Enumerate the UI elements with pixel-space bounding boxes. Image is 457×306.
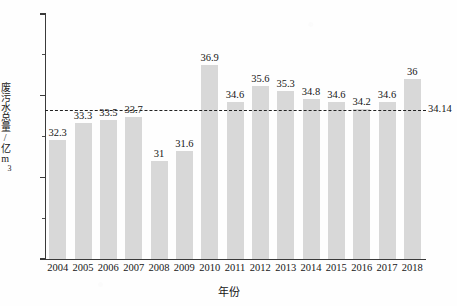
- x-axis-title: 年份: [0, 283, 457, 299]
- y-tick-major: [40, 258, 45, 259]
- bar: [404, 79, 421, 259]
- bar: [227, 102, 244, 259]
- bar-value-label: 36.9: [193, 52, 227, 63]
- y-tick-major: [40, 177, 45, 178]
- bar: [252, 86, 269, 259]
- bar: [125, 117, 142, 259]
- bar: [151, 161, 168, 259]
- bar: [49, 140, 66, 259]
- bar: [277, 91, 294, 259]
- wastewater-bar-chart: 废污水总量/亿m3 25303540 32.333.333.533.73131.…: [0, 0, 457, 306]
- bar-value-label: 32.3: [41, 127, 75, 138]
- y-axis-title: 废污水总量/亿m3: [0, 82, 15, 173]
- reference-line-label: 34.14: [428, 103, 452, 114]
- y-axis-title-text: 废污水总量/亿m: [0, 82, 11, 164]
- bar-value-label: 34.6: [370, 89, 404, 100]
- x-axis-line: [45, 259, 426, 260]
- bar: [176, 151, 193, 259]
- y-axis-title-superscript: 3: [5, 164, 14, 173]
- y-tick-minor: [42, 218, 46, 219]
- bar: [328, 102, 345, 259]
- reference-line: [45, 110, 426, 111]
- bar: [75, 123, 92, 259]
- bar-value-label: 34.6: [218, 89, 252, 100]
- y-tick-major: [40, 95, 45, 96]
- bar-value-label: 36: [395, 66, 429, 77]
- y-tick-minor: [42, 54, 46, 55]
- bar: [379, 102, 396, 259]
- bar: [201, 65, 218, 259]
- bar: [303, 99, 320, 259]
- x-tick-label: 2018: [395, 262, 429, 273]
- bar-value-label: 31: [142, 148, 176, 159]
- bar: [353, 109, 370, 259]
- y-tick-major: [40, 13, 45, 14]
- bar: [100, 120, 117, 259]
- bar-value-label: 31.6: [167, 138, 201, 149]
